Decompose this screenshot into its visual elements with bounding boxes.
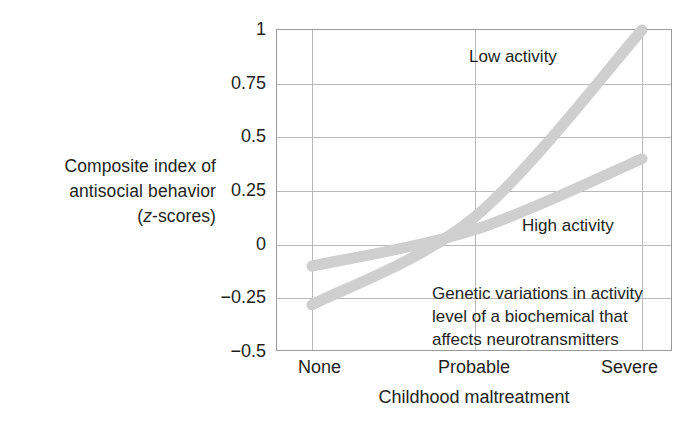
annotation-explanatory-note: Genetic variations in activity level of … bbox=[432, 282, 676, 351]
x-axis-tick-label: Probable bbox=[438, 356, 510, 378]
chart-figure: Composite index of antisocial behavior (… bbox=[0, 0, 697, 440]
annotation-high-activity: High activity bbox=[522, 214, 614, 237]
annotation-low-activity: Low activity bbox=[469, 45, 557, 68]
y-axis-tick-label: 0.75 bbox=[196, 74, 266, 92]
y-axis-title-line-1: Composite index of bbox=[8, 154, 216, 179]
y-axis-title: Composite index of antisocial behavior (… bbox=[8, 154, 216, 229]
x-axis-title: Childhood maltreatment bbox=[276, 386, 672, 408]
y-axis-tick-label: 0 bbox=[196, 235, 266, 253]
y-axis-tick-label: −0.5 bbox=[196, 342, 266, 360]
y-axis-tick-label: 1 bbox=[196, 20, 266, 38]
y-axis-tick-label: 0.25 bbox=[196, 181, 266, 199]
y-axis-tick-labels: 10.750.50.250−0.25−0.5 bbox=[196, 29, 266, 351]
x-axis-tick-labels: NoneProbableSevere bbox=[276, 356, 672, 386]
x-axis-tick-label: None bbox=[298, 356, 341, 378]
note-line-2: level of a biochemical that bbox=[432, 305, 676, 328]
y-axis-title-line-3: (z-scores) bbox=[8, 204, 216, 229]
plot-area: Low activity High activity Genetic varia… bbox=[276, 29, 672, 351]
y-axis-title-line-2: antisocial behavior bbox=[8, 179, 216, 204]
note-line-1: Genetic variations in activity bbox=[432, 282, 676, 305]
y-axis-tick-label: 0.5 bbox=[196, 127, 266, 145]
note-line-3: affects neurotransmitters bbox=[432, 328, 676, 351]
x-axis-tick-label: Severe bbox=[601, 356, 658, 378]
series-line-low-activity bbox=[312, 30, 642, 305]
y-axis-tick-label: −0.25 bbox=[196, 288, 266, 306]
y-axis-title-z-italic: z bbox=[143, 206, 152, 226]
